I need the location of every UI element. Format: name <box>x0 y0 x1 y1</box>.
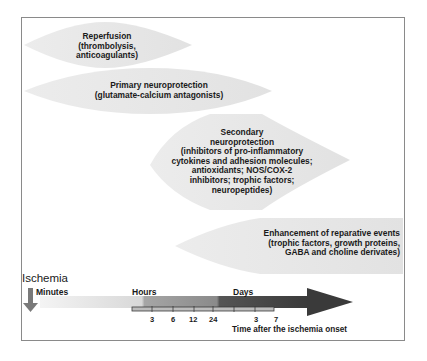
tick-day-7: 7 <box>274 315 278 324</box>
tick-hour-24: 24 <box>209 315 217 324</box>
reparative-events-label: Enhancement of reparative events (trophi… <box>240 229 400 258</box>
axis-caption: Time after the ischemia onset <box>232 325 347 334</box>
reperfusion-detail-2: anticoagulants) <box>62 51 152 61</box>
days-label: Days <box>233 287 253 297</box>
minutes-label: Minutes <box>36 287 68 297</box>
primary-neuroprotection-label: Primary neuroprotection (glutamate-calci… <box>84 81 234 100</box>
ischemia-label: Ischemia <box>22 272 68 284</box>
secondary-detail-5: neuropeptides) <box>167 186 317 196</box>
tick-hour-12: 12 <box>189 315 197 324</box>
secondary-neuroprotection-label: Secondary neuroprotection (inhibitors of… <box>167 128 317 195</box>
tick-hour-6: 6 <box>171 315 175 324</box>
timeline-scale <box>132 306 274 312</box>
tick-day-3: 3 <box>254 315 258 324</box>
reparative-detail-2: GABA and choline derivates) <box>240 248 400 258</box>
reperfusion-label: Reperfusion (thrombolysis, anticoagulant… <box>62 32 152 61</box>
hours-label: Hours <box>132 287 157 297</box>
primary-detail: (glutamate-calcium antagonists) <box>84 91 234 101</box>
timeline-arrow <box>40 288 353 316</box>
tick-hour-3: 3 <box>150 315 154 324</box>
